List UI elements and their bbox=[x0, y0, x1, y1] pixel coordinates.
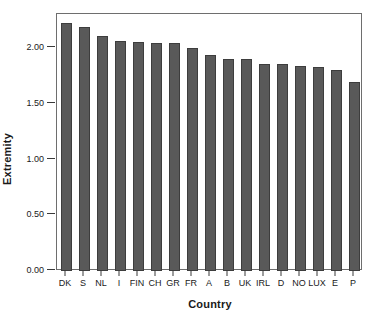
bar bbox=[331, 70, 342, 271]
bar bbox=[61, 23, 72, 271]
bar bbox=[313, 67, 324, 271]
x-tick-label: S bbox=[80, 277, 86, 289]
bar bbox=[205, 55, 216, 271]
y-tick-mark bbox=[47, 102, 55, 103]
y-tick: 2.00 bbox=[0, 41, 56, 53]
x-tick-mark bbox=[119, 270, 120, 276]
x-tick: CH bbox=[146, 270, 164, 294]
x-tick: LUX bbox=[308, 270, 326, 294]
bar-chart: Extremity 0.000.501.001.502.00 DKSNLIFIN… bbox=[0, 0, 373, 318]
x-tick: E bbox=[326, 270, 344, 294]
x-tick-mark bbox=[299, 270, 300, 276]
x-tick: NO bbox=[290, 270, 308, 294]
x-tick-label: FR bbox=[185, 277, 197, 289]
bar bbox=[79, 27, 90, 271]
x-tick: P bbox=[344, 270, 362, 294]
x-axis-label: Country bbox=[55, 298, 365, 310]
x-tick: FIN bbox=[128, 270, 146, 294]
x-tick-mark bbox=[281, 270, 282, 276]
x-tick: IRL bbox=[254, 270, 272, 294]
bar bbox=[349, 82, 360, 271]
x-tick-mark bbox=[65, 270, 66, 276]
x-tick: NL bbox=[92, 270, 110, 294]
bar bbox=[223, 59, 234, 271]
x-tick: DK bbox=[56, 270, 74, 294]
y-tick-label: 1.00 bbox=[26, 153, 44, 165]
bar bbox=[151, 43, 162, 271]
bar bbox=[259, 64, 270, 271]
bar bbox=[187, 48, 198, 271]
y-tick-label: 2.00 bbox=[26, 41, 44, 53]
x-tick-label: B bbox=[224, 277, 230, 289]
y-tick: 0.00 bbox=[0, 264, 56, 276]
bar bbox=[295, 66, 306, 271]
y-tick: 1.50 bbox=[0, 97, 56, 109]
x-tick: UK bbox=[236, 270, 254, 294]
x-tick: A bbox=[200, 270, 218, 294]
x-tick-mark bbox=[317, 270, 318, 276]
x-tick: GR bbox=[164, 270, 182, 294]
bar bbox=[169, 43, 180, 271]
bar bbox=[277, 64, 288, 271]
x-tick-mark bbox=[155, 270, 156, 276]
plot-area bbox=[56, 13, 362, 270]
y-tick-label: 0.50 bbox=[26, 208, 44, 220]
x-tick-mark bbox=[335, 270, 336, 276]
x-tick-mark bbox=[263, 270, 264, 276]
x-tick: FR bbox=[182, 270, 200, 294]
x-tick-label: P bbox=[350, 277, 356, 289]
x-tick-mark bbox=[353, 270, 354, 276]
x-tick: S bbox=[74, 270, 92, 294]
x-tick: B bbox=[218, 270, 236, 294]
x-tick-mark bbox=[137, 270, 138, 276]
bar bbox=[133, 42, 144, 271]
x-tick-mark bbox=[227, 270, 228, 276]
bar bbox=[97, 36, 108, 271]
x-tick-label: DK bbox=[59, 277, 72, 289]
y-tick-label: 0.00 bbox=[26, 264, 44, 276]
y-tick-label: 1.50 bbox=[26, 97, 44, 109]
y-tick-mark bbox=[47, 158, 55, 159]
x-tick-label: IRL bbox=[256, 277, 270, 289]
x-tick-mark bbox=[173, 270, 174, 276]
x-tick-label: I bbox=[118, 277, 121, 289]
y-tick-mark bbox=[47, 213, 55, 214]
x-tick-label: E bbox=[332, 277, 338, 289]
x-tick-label: LUX bbox=[308, 277, 326, 289]
x-tick-mark bbox=[191, 270, 192, 276]
x-tick: I bbox=[110, 270, 128, 294]
x-tick-label: D bbox=[278, 277, 285, 289]
x-tick-mark bbox=[83, 270, 84, 276]
x-tick-label: GR bbox=[166, 277, 180, 289]
x-tick-label: NO bbox=[292, 277, 306, 289]
x-tick-label: CH bbox=[149, 277, 162, 289]
x-tick-mark bbox=[101, 270, 102, 276]
bar bbox=[241, 59, 252, 271]
y-tick: 0.50 bbox=[0, 208, 56, 220]
y-tick-mark bbox=[47, 46, 55, 47]
x-tick-label: UK bbox=[239, 277, 252, 289]
x-tick-label: A bbox=[206, 277, 212, 289]
x-tick-mark bbox=[209, 270, 210, 276]
x-tick-mark bbox=[245, 270, 246, 276]
bar bbox=[115, 41, 126, 271]
x-tick-label: NL bbox=[95, 277, 107, 289]
y-tick-mark bbox=[47, 269, 55, 270]
y-tick: 1.00 bbox=[0, 153, 56, 165]
x-tick-label: FIN bbox=[130, 277, 145, 289]
x-tick: D bbox=[272, 270, 290, 294]
